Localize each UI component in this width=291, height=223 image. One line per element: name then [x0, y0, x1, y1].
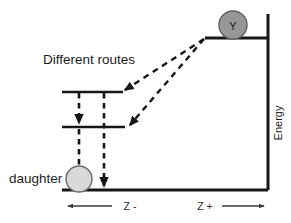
daughter-particle-circle	[66, 166, 92, 192]
decay-route-1-arrow	[125, 39, 204, 90]
daughter-label: daughter	[9, 171, 63, 186]
different-routes-label: Different routes	[43, 52, 135, 67]
energy-levels-group	[62, 92, 125, 127]
energy-diagram-canvas: Y Different routes daughter Energy Z - Z…	[0, 0, 291, 223]
z-positive-label: Z +	[197, 200, 212, 212]
parent-particle-label: Y	[229, 20, 237, 32]
decay-route-2-arrow	[130, 39, 204, 125]
energy-diagram-figure: Y Different routes daughter Energy Z - Z…	[0, 0, 291, 223]
z-positive-measure-group: Z +	[197, 200, 264, 212]
z-negative-label: Z -	[124, 200, 137, 212]
decay-routes-group	[125, 39, 204, 125]
z-negative-measure-group: Z -	[68, 200, 137, 212]
energy-axis-label: Energy	[272, 105, 284, 140]
axes-group	[62, 14, 268, 190]
parent-particle-group: Y	[219, 11, 247, 39]
daughter-particle-group	[66, 166, 92, 192]
